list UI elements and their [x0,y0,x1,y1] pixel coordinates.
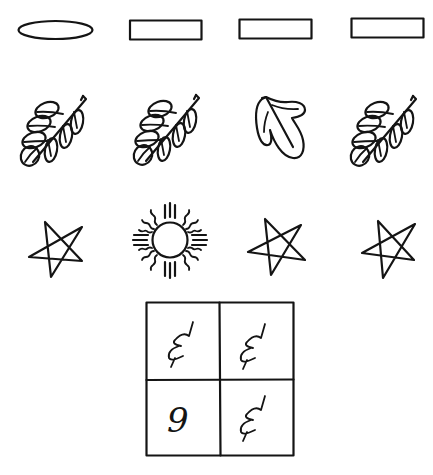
pentagram-star-icon [29,222,82,277]
answer-grid: 9 [147,303,294,456]
grid-cell-squiggle [169,322,193,367]
leafy-branch-icon [130,95,199,168]
row-leaves [17,95,416,169]
puzzle-svg: 9 [0,0,433,475]
rectangle-shape-2 [240,20,312,39]
leafy-branch-icon [17,96,86,169]
sun-icon [133,203,207,278]
grid-cell-digit: 9 [167,400,189,440]
single-leaf-icon [256,97,305,158]
rectangle-shape-1 [130,21,202,40]
ellipse-shape [19,21,93,39]
rectangle-shape-3 [352,19,424,38]
puzzle-figure: 9 [0,0,433,475]
grid-cell-squiggle [241,324,265,369]
row-shapes [19,19,424,40]
pentagram-star-icon [248,219,305,275]
pentagram-star-icon [362,221,415,278]
grid-cell-squiggle [241,396,265,441]
row-stars [29,203,415,278]
leafy-branch-icon [347,96,416,169]
